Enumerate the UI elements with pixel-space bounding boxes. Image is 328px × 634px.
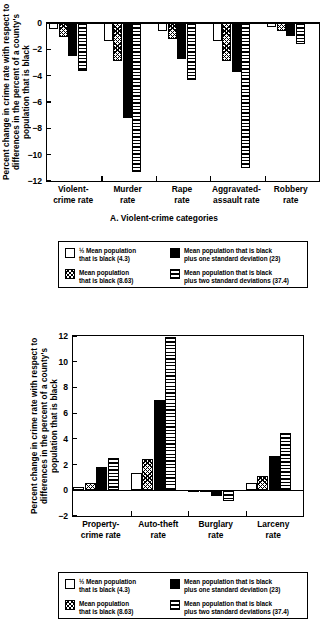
bar	[286, 23, 295, 36]
category-separator	[210, 176, 211, 181]
plot-area-b: 121086420−2	[72, 335, 304, 517]
bar	[59, 23, 68, 37]
legend-a: ½ Mean population that is black (4.3)Mea…	[58, 241, 308, 288]
bar	[211, 490, 222, 496]
bar	[132, 23, 141, 172]
legend-item: Mean population that is black plus two s…	[170, 600, 301, 617]
legend-item: Mean population that is black plus two s…	[170, 269, 301, 286]
legend-item: Mean population that is black (8.63)	[65, 600, 170, 617]
y-tick-label: −2	[58, 511, 73, 521]
category-separator	[101, 176, 102, 181]
y-tick-label: −8	[32, 123, 47, 133]
legend-swatch-white	[65, 248, 75, 258]
x-axis-label: Robbery rate	[264, 184, 318, 205]
y-tick-label: 10	[58, 357, 73, 367]
legend-swatch-black	[170, 248, 180, 258]
bar	[232, 23, 241, 72]
bar-group	[101, 23, 155, 181]
legend-label: ½ Mean population that is black (4.3)	[79, 578, 136, 595]
x-axis-label: Property- crime rate	[72, 519, 130, 540]
legend-item: ½ Mean population that is black (4.3)	[65, 578, 170, 600]
x-axis-label: Violent- crime rate	[46, 184, 100, 205]
bar-group	[73, 336, 131, 516]
x-axis-label: Rape rate	[155, 184, 209, 205]
bar	[154, 400, 165, 491]
category-separator	[246, 511, 247, 516]
legend-item: Mean population that is black plus one s…	[170, 247, 301, 269]
legend-item: ½ Mean population that is black (4.3)	[65, 247, 170, 269]
bar	[200, 490, 211, 492]
x-axis-label: Aggravated- assault rate	[209, 184, 263, 205]
legend-item: Mean population that is black (8.63)	[65, 269, 170, 286]
bar	[296, 23, 305, 44]
bar	[177, 23, 186, 59]
legend-label: Mean population that is black plus one s…	[184, 247, 280, 264]
bar-group	[156, 23, 210, 181]
legend-label: Mean population that is black plus two s…	[184, 269, 289, 286]
legend-item: Mean population that is black plus one s…	[170, 578, 301, 600]
bar	[280, 433, 291, 490]
figure-page: Percent change in crime rate with respec…	[0, 0, 328, 634]
legend-label: Mean population that is black plus two s…	[184, 600, 289, 617]
bar	[108, 458, 119, 491]
bar	[187, 23, 196, 80]
y-tick-label: −6	[32, 97, 47, 107]
bar	[277, 23, 286, 31]
bar	[269, 456, 280, 491]
plot-area-a: 0−2−4−6−8−10−12	[46, 22, 320, 182]
bar	[257, 476, 268, 490]
category-separator	[265, 176, 266, 181]
bar	[131, 473, 142, 490]
bar	[223, 490, 234, 500]
bar-group	[131, 336, 189, 516]
bar	[96, 467, 107, 490]
legend-swatch-black	[170, 579, 180, 589]
bar-group	[47, 23, 101, 181]
bar	[241, 23, 250, 168]
y-tick-label: 2	[63, 460, 73, 470]
chart-panel-b: Percent change in crime rate with respec…	[0, 300, 328, 550]
y-tick-label: 0	[63, 485, 73, 495]
bar	[78, 23, 87, 71]
category-separator	[188, 511, 189, 516]
bar-group	[246, 336, 304, 516]
bar	[113, 23, 122, 61]
y-tick-label: 12	[58, 331, 73, 341]
bar	[222, 23, 231, 61]
bar-group	[188, 336, 246, 516]
legend-b: ½ Mean population that is black (4.3)Mea…	[58, 572, 308, 619]
bar	[142, 459, 153, 490]
bar-group	[265, 23, 319, 181]
y-tick-label: −10	[27, 150, 47, 160]
y-tick-label: 0	[37, 18, 47, 28]
bar	[165, 337, 176, 491]
category-separator	[156, 176, 157, 181]
legend-swatch-horz	[170, 269, 180, 279]
legend-label: Mean population that is black (8.63)	[79, 600, 133, 617]
legend-swatch-white	[65, 579, 75, 589]
chart-panel-a: Percent change in crime rate with respec…	[0, 0, 328, 230]
bar	[49, 23, 58, 29]
legend-swatch-hatch	[65, 269, 75, 279]
legend-label: ½ Mean population that is black (4.3)	[79, 247, 136, 264]
bar	[168, 23, 177, 39]
x-axis-label: Murder rate	[100, 184, 154, 205]
legend-label: Mean population that is black plus one s…	[184, 578, 280, 595]
y-tick-label: 4	[63, 434, 73, 444]
legend-label: Mean population that is black (8.63)	[79, 269, 133, 286]
bar	[85, 483, 96, 491]
y-tick-label: 6	[63, 408, 73, 418]
bar	[104, 23, 113, 41]
bar	[68, 23, 77, 56]
legend-swatch-horz	[170, 600, 180, 610]
bar	[213, 23, 222, 41]
x-axis-label: Burglary rate	[187, 519, 245, 540]
bar	[267, 23, 276, 27]
bar	[123, 23, 132, 118]
category-separator	[131, 511, 132, 516]
bar-group	[210, 23, 264, 181]
caption-a: A. Violent-crime categories	[0, 213, 328, 223]
y-axis-label-a: Percent change in crime rate with respec…	[2, 0, 36, 190]
legend-swatch-hatch	[65, 600, 75, 610]
bar	[158, 23, 167, 31]
